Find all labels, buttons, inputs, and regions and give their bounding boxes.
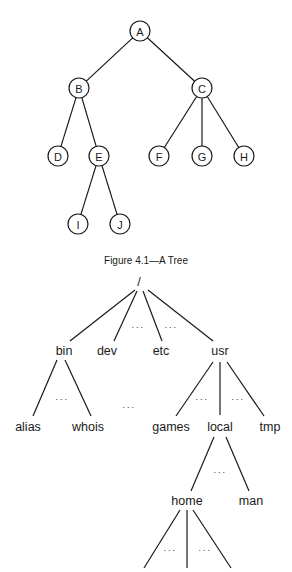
figure1-nodes: ABCDEFGHIJ xyxy=(48,21,254,234)
tree-node-g: G xyxy=(192,146,212,166)
fs-edge xyxy=(65,360,91,416)
tree-node-d: D xyxy=(48,146,68,166)
tree-node-j: J xyxy=(110,214,130,234)
figure-caption: Figure 4.1—A Tree xyxy=(104,255,188,266)
fs-node-alias: alias xyxy=(15,420,41,434)
fs-edge xyxy=(176,362,213,416)
node-label: H xyxy=(240,151,248,163)
node-label: F xyxy=(156,151,163,163)
fs-node-tmp: tmp xyxy=(260,420,281,434)
tree-node-f: F xyxy=(149,146,169,166)
fs-node-man: man xyxy=(239,494,263,508)
ellipsis-marker: ··· xyxy=(195,394,209,404)
tree-node-i: I xyxy=(68,214,88,234)
tree-edge xyxy=(164,96,196,147)
fs-edge xyxy=(227,362,264,416)
fs-edge xyxy=(33,360,57,416)
tree-edge xyxy=(81,166,96,215)
node-label: E xyxy=(95,151,102,163)
ellipsis-marker: ··· xyxy=(198,545,212,555)
fs-node-root: / xyxy=(137,275,141,289)
node-label: I xyxy=(76,219,79,231)
fs-node-etc: etc xyxy=(153,344,170,358)
node-label: B xyxy=(75,83,82,95)
figure2-nodes: /bindevetcusraliaswhoisgameslocaltmphome… xyxy=(15,275,280,508)
fs-node-local: local xyxy=(207,420,233,434)
ellipsis-marker: ··· xyxy=(213,467,227,477)
fs-node-dev: dev xyxy=(97,344,118,358)
tree-edge xyxy=(207,97,238,148)
tree-edge xyxy=(102,166,117,215)
node-label: A xyxy=(136,26,144,38)
tree-diagrams: ABCDEFGHIJ Figure 4.1—A Tree ···········… xyxy=(0,0,292,572)
tree-node-a: A xyxy=(130,21,150,41)
fs-node-games: games xyxy=(152,420,190,434)
tree-node-h: H xyxy=(234,146,254,166)
fs-edge xyxy=(148,290,213,341)
tree-node-c: C xyxy=(192,78,212,98)
ellipsis-marker: ··· xyxy=(55,394,69,404)
tree-edge xyxy=(147,38,194,81)
fs-edge xyxy=(191,437,214,491)
node-label: J xyxy=(117,219,123,231)
tree-node-b: B xyxy=(69,78,89,98)
node-label: G xyxy=(198,151,207,163)
node-label: C xyxy=(198,83,206,95)
ellipsis-marker: ··· xyxy=(164,322,178,332)
ellipsis-marker: ··· xyxy=(231,394,245,404)
node-label: D xyxy=(54,151,62,163)
fs-edge xyxy=(193,510,231,568)
fs-node-home: home xyxy=(171,494,202,508)
figure1-edges xyxy=(61,38,239,215)
fs-edge xyxy=(226,437,249,491)
fs-node-usr: usr xyxy=(211,344,228,358)
ellipsis-marker: ··· xyxy=(131,322,145,332)
fs-node-whois: whois xyxy=(71,420,104,434)
tree-edge xyxy=(82,98,96,147)
fs-edge xyxy=(114,291,137,341)
fs-edge xyxy=(144,510,180,568)
ellipsis-marker: ··· xyxy=(122,402,136,412)
ellipsis-marker: ··· xyxy=(163,545,177,555)
tree-node-e: E xyxy=(89,146,109,166)
tree-edge xyxy=(61,98,76,147)
fs-node-bin: bin xyxy=(56,344,73,358)
tree-edge xyxy=(86,38,132,81)
